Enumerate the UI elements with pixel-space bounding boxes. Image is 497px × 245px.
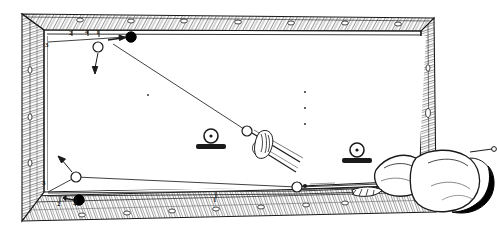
diamond-bottom-6: [303, 203, 310, 207]
marker-base-left: [196, 144, 226, 149]
billiard-diagram-illustration: 3 2 4 1 3 2 4 1: [0, 0, 497, 245]
diamond-top-1: [77, 18, 84, 22]
diamond-bottom-3: [169, 209, 176, 213]
diamond-right-2: [426, 109, 431, 118]
diamond-left-1: [28, 67, 32, 73]
diamond-bottom-2: [124, 211, 131, 215]
marker-ball-left-pip: [209, 134, 212, 137]
diamond-top-4: [235, 20, 242, 24]
diamond-bottom-1: [79, 213, 86, 217]
object-ball-top: [126, 32, 136, 42]
diamond-bottom-7: [342, 201, 349, 205]
cue-ball-top: [93, 42, 103, 52]
diamond-right-1: [426, 65, 430, 71]
table-rail-top: [22, 14, 434, 35]
diamond-bottom-5: [258, 205, 265, 209]
marker-ball-right-pip: [355, 148, 358, 151]
diamond-top-3: [181, 19, 188, 23]
diamond-bottom-4: [213, 207, 220, 211]
diamond-left-3: [28, 160, 32, 166]
diamond-top-6: [342, 21, 349, 25]
table-bed: [48, 35, 426, 191]
position-label-3-lower-left: 3: [42, 179, 46, 187]
position-label-3-upper-left: 3: [45, 41, 49, 49]
diamond-top-5: [288, 21, 295, 25]
ball-at-cue-tip: [242, 126, 252, 136]
marker-base-right: [342, 158, 372, 163]
cue-ball-lower: [71, 172, 81, 182]
diamond-top-2: [128, 19, 135, 23]
diamond-left-2: [28, 114, 32, 120]
diamond-top-7: [395, 22, 402, 26]
ball-on-rail-low: [292, 182, 302, 192]
